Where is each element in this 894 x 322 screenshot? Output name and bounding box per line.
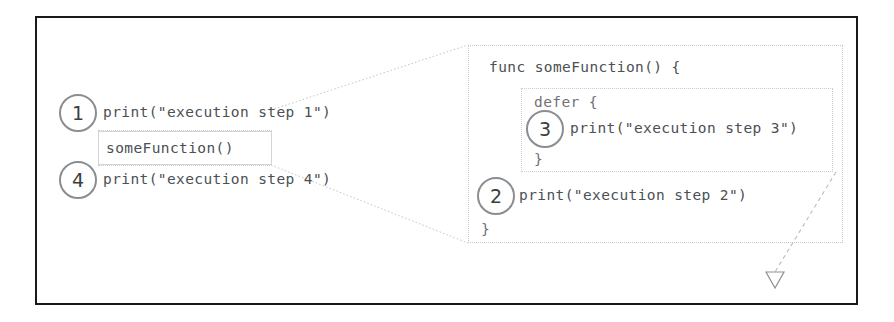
step4-overline [98,165,272,166]
diagram-canvas: print("execution step 1") someFunction()… [0,0,894,322]
step-badge-2: 2 [477,177,515,215]
defer-print-line: print("execution step 3") [570,121,798,136]
left-code-line-call: someFunction() [106,141,234,156]
step1-underline [98,130,272,131]
step-badge-4: 4 [59,161,97,199]
step-badge-4-label: 4 [72,169,84,191]
left-code-line-step1: print("execution step 1") [103,105,331,120]
step-badge-1: 1 [59,94,97,132]
left-code-line-step4: print("execution step 4") [103,172,331,187]
step-badge-1-label: 1 [72,102,84,124]
function-closing-brace: } [481,222,490,237]
step-badge-3-label: 3 [539,118,551,140]
step-badge-2-label: 2 [490,185,502,207]
defer-closing-brace: } [534,152,543,167]
function-signature: func someFunction() { [489,60,681,75]
defer-keyword-line: defer { [534,95,598,110]
step-badge-3: 3 [526,110,564,148]
function-print-line: print("execution step 2") [519,188,747,203]
